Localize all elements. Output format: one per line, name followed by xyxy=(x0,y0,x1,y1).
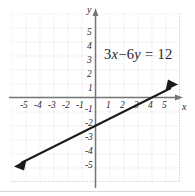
x-tick-label-2: 2 xyxy=(120,101,125,111)
y-tick-label-5: 5 xyxy=(87,28,92,38)
y-tick-label-2: 2 xyxy=(87,70,92,80)
x-tick-label-1: 1 xyxy=(106,101,111,111)
bottom-divider xyxy=(0,191,195,192)
x-axis-label: x xyxy=(182,102,186,112)
x-tick-label-neg1: -1 xyxy=(76,101,84,111)
equation-equals-sign: = xyxy=(145,46,153,62)
graph-figure: -5 -4 -3 -2 -1 1 2 3 4 5 5 4 3 2 1 -1 -2… xyxy=(0,0,195,196)
y-tick-label-neg1: -1 xyxy=(85,105,93,115)
x-tick-label-neg5: -5 xyxy=(20,101,28,111)
y-tick-label-neg3: -3 xyxy=(85,133,93,143)
y-tick-label-4: 4 xyxy=(87,42,92,52)
x-tick-label-neg3: -3 xyxy=(48,101,56,111)
equation-minus-sign: − xyxy=(118,46,126,62)
equation-variable-y: y xyxy=(134,46,141,62)
x-tick-label-3: 3 xyxy=(134,101,139,111)
equation-coefficient-x: 3 xyxy=(104,46,112,62)
x-tick-label-neg4: -4 xyxy=(34,101,42,111)
x-tick-label-5: 5 xyxy=(162,101,167,111)
x-tick-label-4: 4 xyxy=(148,101,153,111)
y-tick-label-3: 3 xyxy=(87,56,92,66)
x-tick-label-neg2: -2 xyxy=(62,101,70,111)
y-tick-label-1: 1 xyxy=(88,84,93,94)
y-tick-label-neg5: -5 xyxy=(85,161,93,171)
equation-constant: 12 xyxy=(157,46,172,62)
y-axis-label: y xyxy=(87,5,91,15)
y-tick-label-neg4: -4 xyxy=(85,147,93,157)
equation-annotation: 3x−6y = 12 xyxy=(104,47,173,62)
y-tick-label-neg2: -2 xyxy=(85,119,93,129)
coordinate-plane-svg xyxy=(0,0,195,196)
